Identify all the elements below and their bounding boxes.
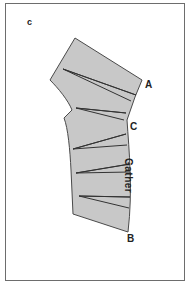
sleeve-pattern-piece — [50, 38, 142, 232]
point-c-label: C — [130, 121, 137, 132]
point-b-label: B — [127, 233, 134, 244]
point-a-label: A — [145, 79, 152, 90]
pattern-diagram — [0, 0, 193, 287]
gather-annotation: Gather — [123, 158, 134, 193]
